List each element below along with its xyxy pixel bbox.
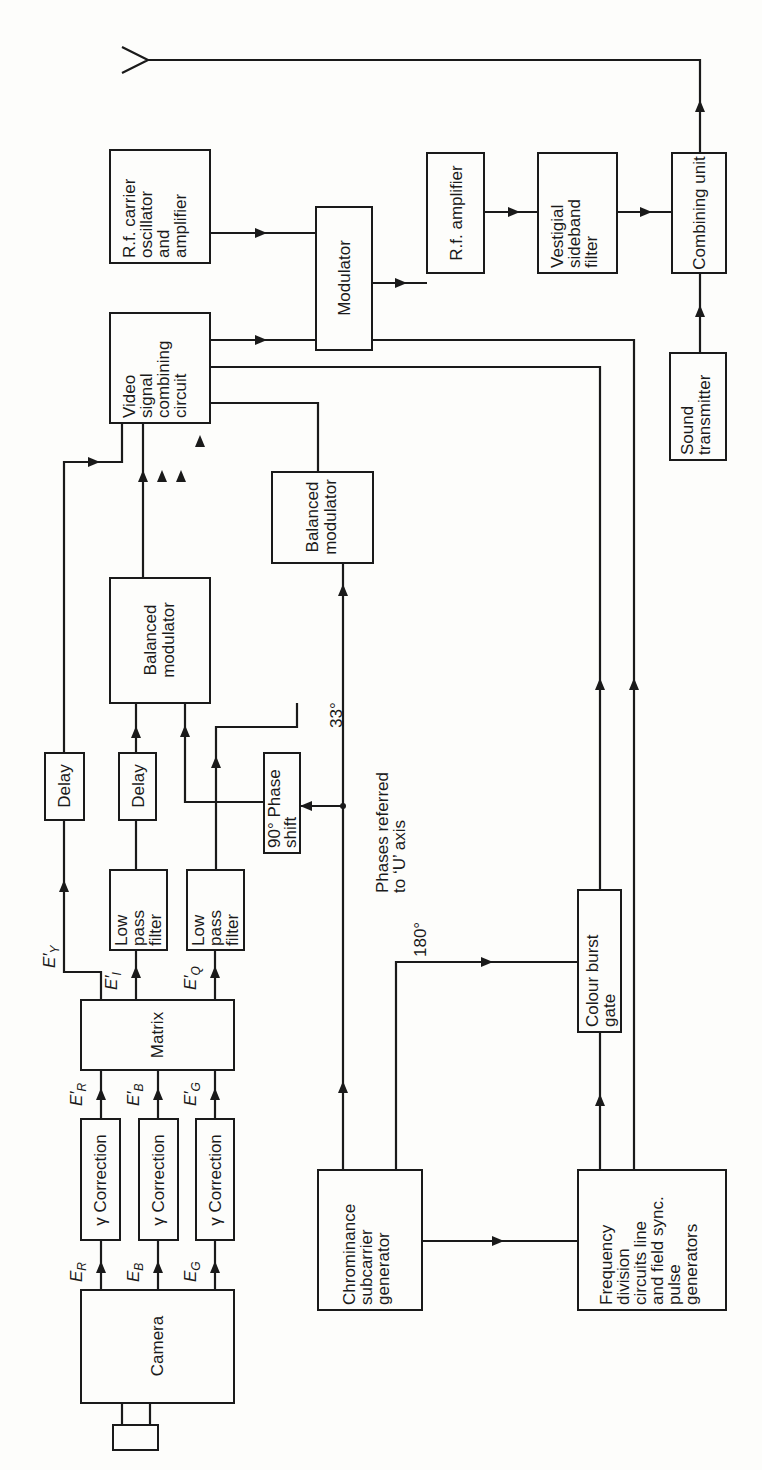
svg-text:generators: generators [682, 1224, 701, 1305]
svg-text:EG: EG [181, 1261, 203, 1282]
low-pass-filter-q-block: Low pass filter [187, 870, 244, 950]
svg-text:shift: shift [281, 817, 300, 848]
svg-text:ER: ER [67, 1262, 89, 1282]
svg-text:E′B: E′B [124, 1083, 146, 1106]
camera-block: Camera [81, 1290, 234, 1403]
balanced-modulator-1-block: Balanced modulator [110, 578, 210, 703]
svg-text:EB: EB [124, 1263, 146, 1282]
svg-text:R.f. amplifier: R.f. amplifier [447, 165, 466, 261]
colour-burst-gate-block: Colour burst gate [578, 890, 621, 1032]
svg-text:γ Correction: γ Correction [91, 1134, 110, 1226]
phase-shift-block: 90° Phase shift [264, 753, 300, 853]
svg-text:E′Q: E′Q [181, 966, 203, 990]
video-combining-circuit-block: Video signal combining circuit [110, 313, 210, 423]
modulator-block: Modulator [316, 207, 372, 350]
delay-i-block: Delay [119, 753, 156, 820]
svg-text:Balanced: Balanced [141, 605, 160, 676]
camera-lens-icon [113, 1425, 158, 1450]
svg-text:modulator: modulator [159, 602, 178, 678]
svg-text:Matrix: Matrix [148, 1011, 167, 1058]
frequency-division-block: Frequency division circuits line and fie… [578, 1170, 726, 1310]
rf-carrier-oscillator-block: R.f. carrier oscillator and amplifier [110, 150, 210, 263]
diagram-canvas: Camera γ Correction γ Correction γ Corre… [0, 0, 762, 1470]
svg-text:Combining unit: Combining unit [690, 156, 709, 270]
balanced-modulator-2-block: Balanced modulator [272, 472, 373, 563]
svg-text:E′I: E′I [102, 971, 124, 990]
svg-text:Modulator: Modulator [335, 240, 354, 316]
gamma-correction-b-block: γ Correction [139, 1119, 178, 1240]
phase-33-label: 33° [327, 702, 346, 728]
svg-text:Balanced: Balanced [303, 482, 322, 553]
rf-amplifier-block: R.f. amplifier [427, 153, 484, 273]
svg-text:E′G: E′G [181, 1082, 203, 1106]
svg-text:generator: generator [374, 1232, 393, 1305]
chrominance-subcarrier-generator-block: Chrominance subcarrier generator [318, 1170, 422, 1310]
svg-text:Delay: Delay [129, 764, 148, 808]
camera-label: Camera [148, 1315, 167, 1376]
svg-text:transmitter: transmitter [695, 374, 714, 455]
phase-180-label: 180° [411, 922, 430, 957]
svg-text:amplifier: amplifier [171, 193, 190, 258]
svg-text:E′Y: E′Y [40, 944, 62, 968]
vestigial-sideband-filter-block: Vestigial sideband filter [538, 153, 617, 273]
svg-text:modulator: modulator [321, 479, 340, 555]
svg-text:gate: gate [600, 994, 619, 1027]
svg-text:circuit: circuit [171, 373, 190, 418]
delay-y-block: Delay [45, 753, 84, 820]
svg-text:γ Correction: γ Correction [206, 1134, 225, 1226]
sound-transmitter-block: Sound transmitter [670, 353, 726, 460]
gamma-correction-g-block: γ Correction [196, 1119, 234, 1240]
combining-unit-block: Combining unit [672, 153, 726, 273]
gamma-correction-r-block: γ Correction [81, 1119, 120, 1240]
svg-text:filter: filter [582, 236, 601, 268]
svg-text:Delay: Delay [55, 764, 74, 808]
svg-text:filter: filter [146, 914, 165, 946]
svg-text:E′R: E′R [67, 1082, 89, 1106]
svg-text:γ Correction: γ Correction [149, 1134, 168, 1226]
matrix-block: Matrix [81, 1000, 234, 1070]
phases-note-line2: to ‘U’ axis [390, 820, 409, 893]
low-pass-filter-i-block: Low pass filter [110, 870, 167, 950]
svg-text:filter: filter [223, 914, 242, 946]
